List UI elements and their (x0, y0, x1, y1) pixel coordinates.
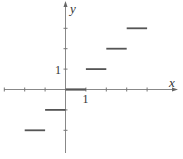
y-tick-label-1: 1 (55, 63, 61, 77)
y-axis-arrow-icon (64, 1, 68, 7)
ticks (4, 28, 147, 130)
step-segments (25, 28, 147, 130)
y-axis-label: y (68, 1, 76, 16)
x-tick-label-1: 1 (83, 92, 89, 106)
step-function-chart: x y 1 1 (0, 0, 183, 159)
x-axis-label: x (168, 75, 175, 90)
